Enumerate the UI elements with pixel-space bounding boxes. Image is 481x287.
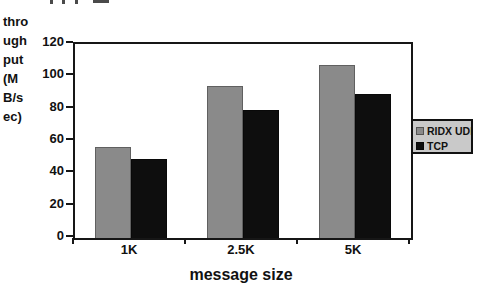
legend-item-tcp: TCP xyxy=(416,138,471,153)
bar-tcp-1k xyxy=(131,159,167,238)
bar-chart-figure: throughput(MB/sec) 120100806040200 1K2.5… xyxy=(0,0,481,287)
y-tick-label: 60 xyxy=(30,131,64,146)
y-axis-title-line: thro xyxy=(3,12,28,31)
legend-label: RIDX UDP xyxy=(427,125,473,137)
legend-swatch-icon xyxy=(416,127,424,135)
bar-ridx-udp-5k xyxy=(319,65,355,238)
y-tick-mark xyxy=(66,170,73,172)
cropped-text-remnant xyxy=(93,0,109,3)
x-category-label-2.5k: 2.5K xyxy=(185,242,297,257)
y-tick-label: 20 xyxy=(30,196,64,211)
y-axis-title-line: (M xyxy=(3,69,28,88)
y-axis-title-line: ugh xyxy=(3,31,28,50)
y-tick-label: 80 xyxy=(30,99,64,114)
cropped-text-remnant xyxy=(62,0,65,4)
x-axis-title: message size xyxy=(73,266,409,284)
cropped-text-remnant xyxy=(50,0,53,4)
bar-tcp-2.5k xyxy=(243,110,279,238)
x-category-label-5k: 5K xyxy=(297,242,409,257)
y-tick-mark xyxy=(66,106,73,108)
bar-ridx-udp-1k xyxy=(95,147,131,238)
y-tick-mark xyxy=(66,73,73,75)
y-tick-label: 40 xyxy=(30,163,64,178)
y-tick-mark xyxy=(66,235,73,237)
legend-swatch-icon xyxy=(416,142,424,150)
plot-area xyxy=(73,42,413,240)
y-axis-title-line: B/s xyxy=(3,88,28,107)
y-axis-title: throughput(MB/sec) xyxy=(3,12,28,126)
y-tick-label: 120 xyxy=(30,34,64,49)
bar-ridx-udp-2.5k xyxy=(207,86,243,238)
bar-tcp-5k xyxy=(355,94,391,238)
y-axis-title-line: put xyxy=(3,50,28,69)
y-tick-mark xyxy=(66,41,73,43)
y-axis-title-line: ec) xyxy=(3,107,28,126)
y-tick-mark xyxy=(66,203,73,205)
x-category-label-1k: 1K xyxy=(73,242,185,257)
y-tick-label: 0 xyxy=(30,228,64,243)
y-tick-mark xyxy=(66,138,73,140)
cropped-text-remnant xyxy=(75,0,78,4)
y-tick-label: 100 xyxy=(30,66,64,81)
legend-item-ridx-udp: RIDX UDP xyxy=(416,123,471,138)
legend-label: TCP xyxy=(427,140,448,152)
legend: RIDX UDPTCP xyxy=(411,119,473,154)
